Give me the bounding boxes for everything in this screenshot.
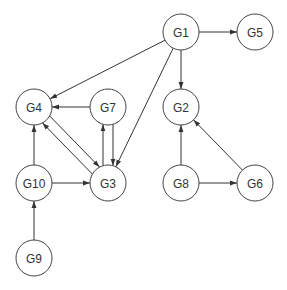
node-g9: G9: [16, 240, 52, 276]
node-label: G2: [173, 101, 189, 115]
edge-g6-to-g2: [194, 120, 243, 170]
gene-network-graph: G1G5G2G4G7G10G3G8G6G9: [0, 0, 287, 290]
node-label: G10: [23, 177, 46, 191]
node-g1: G1: [163, 14, 199, 50]
node-g4: G4: [16, 89, 52, 125]
node-label: G8: [173, 177, 189, 191]
edges-layer: [34, 32, 242, 240]
node-g5: G5: [237, 14, 273, 50]
node-label: G9: [26, 252, 42, 266]
node-label: G3: [100, 177, 116, 191]
node-g3: G3: [90, 165, 126, 201]
node-label: G7: [100, 101, 116, 115]
node-g2: G2: [163, 89, 199, 125]
node-g7: G7: [90, 89, 126, 125]
edge-g3-to-g4: [42, 123, 92, 174]
node-g10: G10: [16, 165, 52, 201]
edge-g4-to-g3: [50, 116, 100, 167]
node-label: G4: [26, 101, 42, 115]
node-g6: G6: [237, 165, 273, 201]
node-label: G1: [173, 26, 189, 40]
nodes-layer: G1G5G2G4G7G10G3G8G6G9: [16, 14, 273, 276]
node-g8: G8: [163, 165, 199, 201]
node-label: G5: [247, 26, 263, 40]
node-label: G6: [247, 177, 263, 191]
